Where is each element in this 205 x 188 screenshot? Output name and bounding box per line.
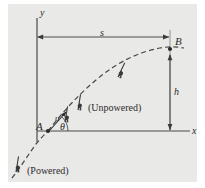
x-axis-label: x <box>192 126 196 136</box>
velocity-label-u: u <box>55 114 60 123</box>
phase-label-unpowered: (Unpowered) <box>88 103 141 113</box>
angle-label-theta: θ <box>60 122 65 132</box>
phase-label-powered: (Powered) <box>27 166 69 176</box>
point-marker-a <box>46 129 50 133</box>
rocket-trajectory-figure: y x s h A B u θ (Unpowered) (Powered) <box>0 0 205 188</box>
point-marker-b <box>168 47 172 51</box>
point-label-a: A <box>36 121 43 132</box>
y-axis-label: y <box>40 8 44 18</box>
dimension-label-s: s <box>100 28 104 38</box>
point-label-b: B <box>175 36 182 47</box>
dimension-label-h: h <box>174 87 179 97</box>
